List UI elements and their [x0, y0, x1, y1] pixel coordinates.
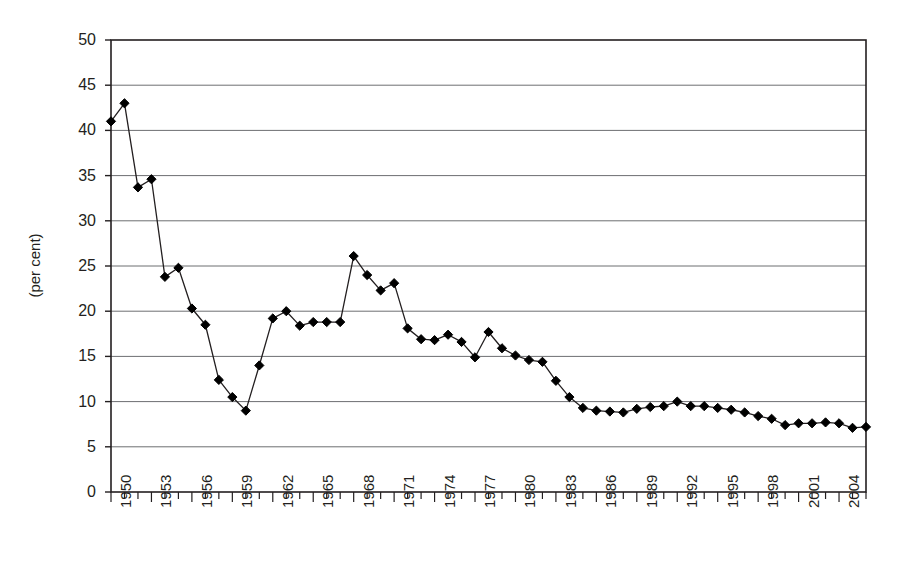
- x-axis-tick-label: 1974: [441, 475, 458, 508]
- x-axis-tick-label: 2001: [805, 475, 822, 508]
- x-axis-tick-label: 1986: [602, 475, 619, 508]
- x-axis-tick-label: 1968: [360, 475, 377, 508]
- x-axis-tick-label: 1992: [683, 475, 700, 508]
- x-axis-tick-label: 1983: [562, 475, 579, 508]
- x-axis-tick-label: 1959: [238, 475, 255, 508]
- y-axis-tick-label: 0: [50, 483, 96, 501]
- x-axis-tick-label: 1962: [279, 475, 296, 508]
- y-axis-tick-label: 20: [50, 302, 96, 320]
- x-axis-tick-label: 1998: [764, 475, 781, 508]
- x-axis-tick-label: 1971: [400, 475, 417, 508]
- y-axis-tick-label: 45: [50, 76, 96, 94]
- y-axis-tick-label: 40: [50, 121, 96, 139]
- x-axis-tick-label: 1977: [481, 475, 498, 508]
- y-axis-tick-label: 30: [50, 212, 96, 230]
- y-axis-tick-label: 50: [50, 31, 96, 49]
- x-axis-tick-label: 1989: [643, 475, 660, 508]
- x-axis-tick-label: 1953: [157, 475, 174, 508]
- x-axis-tick-label: 1995: [724, 475, 741, 508]
- y-axis-tick-label: 5: [50, 438, 96, 456]
- x-axis-tick-label: 1965: [319, 475, 336, 508]
- y-axis-tick-label: 25: [50, 257, 96, 275]
- chart-figure: (per cent) 05101520253035404550 19501953…: [0, 0, 899, 588]
- y-axis-tick-label: 35: [50, 167, 96, 185]
- x-axis-tick-label: 1950: [117, 475, 134, 508]
- x-axis-tick-label: 1980: [521, 475, 538, 508]
- x-axis-tick-label: 1956: [198, 475, 215, 508]
- y-axis-tick-label: 10: [50, 393, 96, 411]
- x-axis-tick-label: 2004: [845, 475, 862, 508]
- grid-lines: [111, 85, 866, 447]
- y-axis-ticks: [105, 40, 111, 492]
- y-axis-tick-label: 15: [50, 347, 96, 365]
